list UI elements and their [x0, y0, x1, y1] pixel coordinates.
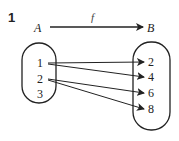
domain-element: 1 — [37, 56, 43, 70]
mapping-arrow-1-to-4 — [48, 64, 144, 77]
codomain-element: 8 — [148, 102, 154, 116]
domain-label: A — [33, 21, 42, 35]
codomain-element: 2 — [148, 55, 154, 69]
mapping-arrow-2-to-6 — [48, 79, 144, 93]
codomain-element: 6 — [148, 86, 154, 100]
domain-element: 2 — [37, 72, 43, 86]
codomain-label: B — [147, 21, 155, 35]
domain-element: 3 — [37, 87, 43, 101]
mapping-arrow-1-to-2 — [48, 62, 144, 63]
mapping-diagram: A f B 1 2 3 2 4 6 8 — [0, 0, 179, 141]
mapping-arrow-2-to-8 — [48, 80, 144, 109]
function-label: f — [91, 11, 96, 23]
codomain-element: 4 — [148, 70, 154, 84]
